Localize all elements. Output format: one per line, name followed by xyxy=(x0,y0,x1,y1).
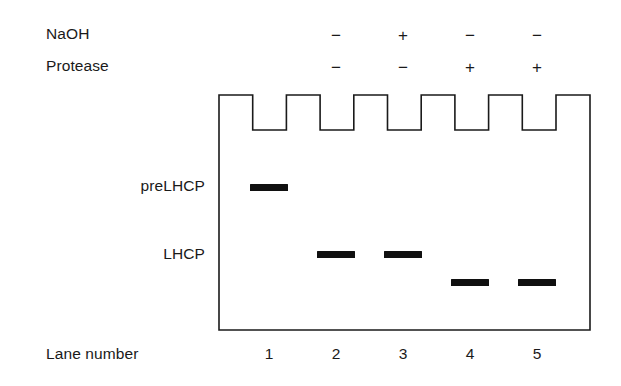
band-lane-5-lhcp-clipped xyxy=(518,279,556,286)
lane-number-5: 5 xyxy=(522,345,552,363)
protease-mark-lane-3: − xyxy=(388,58,418,78)
naoh-mark-lane-4: − xyxy=(455,26,485,46)
protease-mark-lane-2: − xyxy=(321,58,351,78)
gel-outline xyxy=(215,90,595,336)
protease-mark-lane-5: + xyxy=(522,58,552,78)
lane-number-4: 4 xyxy=(455,345,485,363)
row-label-protease: Protease xyxy=(0,57,205,75)
gel-figure: NaOH Protease preLHCP LHCP Lane number −… xyxy=(0,0,621,386)
band-lane-4-lhcp-clipped xyxy=(451,279,489,286)
naoh-mark-lane-3: + xyxy=(388,26,418,46)
row-label-lhcp: LHCP xyxy=(0,245,205,263)
band-lane-2-lhcp xyxy=(317,251,355,258)
row-label-naoh: NaOH xyxy=(0,25,205,43)
row-label-prelhcp: preLHCP xyxy=(0,177,205,195)
lane-number-3: 3 xyxy=(388,345,418,363)
lane-number-1: 1 xyxy=(254,345,284,363)
lane-number-2: 2 xyxy=(321,345,351,363)
row-label-lane-number: Lane number xyxy=(0,345,205,363)
band-lane-3-lhcp xyxy=(384,251,422,258)
naoh-mark-lane-5: − xyxy=(522,26,552,46)
band-lane-1-prelhcp xyxy=(250,184,288,191)
naoh-mark-lane-2: − xyxy=(321,26,351,46)
protease-mark-lane-4: + xyxy=(455,58,485,78)
